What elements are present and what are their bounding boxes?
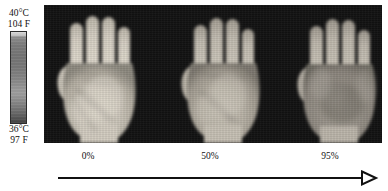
progression-arrow [56, 168, 380, 188]
percent-label-0: 0% [58, 150, 118, 162]
colorbar-min-celsius-label: 36°C [0, 124, 38, 134]
thermal-hand-1 [168, 5, 278, 143]
temperature-colorbar-group: 40°C 104 F 36°C 97 F [0, 0, 44, 150]
thermal-hand-figure: 40°C 104 F 36°C 97 F [0, 0, 388, 191]
thermal-image-panel [44, 5, 382, 143]
arrow-head-icon [362, 172, 376, 185]
thermal-hand-0 [48, 5, 158, 143]
thermal-hand-1-image [168, 5, 278, 143]
thermal-hand-2 [280, 5, 382, 143]
percent-label-1: 50% [180, 150, 240, 162]
colorbar-grain-overlay [11, 32, 26, 123]
percent-label-2: 95% [300, 150, 360, 162]
thermal-hand-2-image [280, 5, 382, 143]
colorbar-min-fahrenheit-label: 97 F [0, 135, 38, 145]
thermal-hand-0-image [48, 5, 158, 143]
colorbar-max-fahrenheit-label: 104 F [0, 19, 38, 29]
colorbar-max-celsius-label: 40°C [0, 8, 38, 18]
colorbar-gradient [10, 31, 27, 124]
